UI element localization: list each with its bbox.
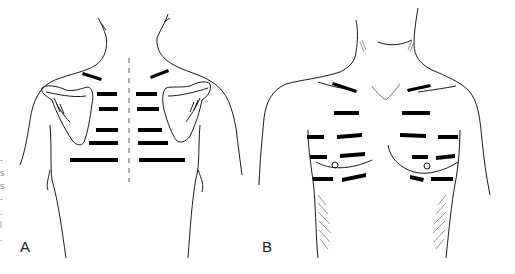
panel-a-markers <box>70 69 185 162</box>
marker-bar <box>307 135 324 139</box>
marker-bar <box>82 72 102 81</box>
marker-bar <box>136 92 157 96</box>
marker-bar <box>97 92 117 96</box>
marker-bar <box>431 177 453 181</box>
marker-bar <box>412 155 428 159</box>
marker-bar <box>138 128 162 132</box>
marker-bar <box>138 141 168 145</box>
marker-bar <box>410 175 424 182</box>
panel-b-front-figure <box>259 8 490 258</box>
illustration <box>0 0 515 274</box>
marker-bar <box>313 177 333 181</box>
panel-a-back-figure <box>20 14 242 258</box>
marker-bar <box>99 107 118 111</box>
marker-bar <box>70 158 118 162</box>
marker-bar <box>137 107 159 111</box>
marker-bar <box>139 158 185 162</box>
marker-bar <box>150 69 169 79</box>
marker-bar <box>438 135 458 139</box>
marker-bar <box>337 133 362 139</box>
marker-bar <box>342 173 366 182</box>
panel-label-a: A <box>20 238 30 255</box>
marker-bar <box>332 82 357 93</box>
marker-bar <box>334 111 359 115</box>
marker-bar <box>340 152 365 158</box>
panel-label-b: B <box>262 238 272 255</box>
marker-bar <box>400 133 426 138</box>
marker-bar <box>436 154 455 160</box>
marker-bar <box>96 128 118 132</box>
marker-bar <box>89 141 118 145</box>
marker-bar <box>310 155 327 159</box>
marker-bar <box>402 111 430 115</box>
